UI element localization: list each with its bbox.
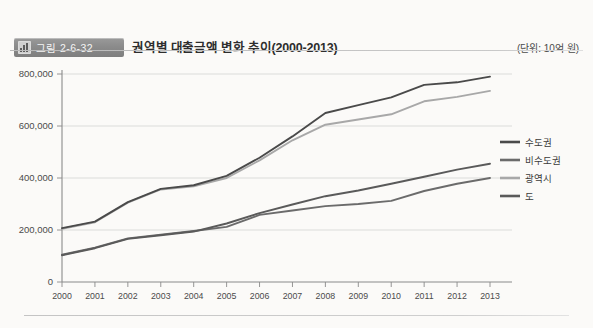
x-axis-label: 2011 xyxy=(415,291,434,300)
legend-label-광역시: 광역시 xyxy=(525,173,552,184)
y-axis-label: 200,000 xyxy=(19,224,53,235)
x-axis-label: 2013 xyxy=(480,291,500,300)
figure-header: 그림 2-6-32 권역별 대출금액 변화 추이(2000-2013) (단위:… xyxy=(0,16,593,48)
series-line-비수도권 xyxy=(62,178,490,255)
footer-divider xyxy=(24,315,569,316)
line-chart: 0200,000400,000600,000800,00020002001200… xyxy=(0,52,593,300)
x-axis-label: 2010 xyxy=(381,291,401,300)
legend-label-수도권: 수도권 xyxy=(525,137,552,148)
x-axis-label: 2005 xyxy=(217,291,237,300)
legend-label-도: 도 xyxy=(525,191,534,202)
x-axis-label: 2001 xyxy=(85,291,105,300)
x-axis-label: 2002 xyxy=(118,291,138,300)
y-axis-label: 0 xyxy=(48,276,53,287)
x-axis-label: 2009 xyxy=(349,291,369,300)
x-axis-label: 2012 xyxy=(447,291,467,300)
series-line-수도권 xyxy=(62,77,490,229)
header-divider xyxy=(10,50,583,51)
x-axis-label: 2006 xyxy=(250,291,270,300)
x-axis-label: 2004 xyxy=(184,291,204,300)
chart-canvas: 0200,000400,000600,000800,00020002001200… xyxy=(0,52,593,300)
figure-page: 그림 2-6-32 권역별 대출금액 변화 추이(2000-2013) (단위:… xyxy=(0,0,593,328)
x-axis-label: 2000 xyxy=(52,291,72,300)
legend-label-비수도권: 비수도권 xyxy=(525,155,561,166)
y-axis-label: 800,000 xyxy=(19,68,53,79)
y-axis-label: 400,000 xyxy=(19,172,53,183)
x-axis-label: 2008 xyxy=(316,291,336,300)
x-axis-label: 2003 xyxy=(151,291,171,300)
series-line-도 xyxy=(62,164,490,256)
y-axis-label: 600,000 xyxy=(19,120,53,131)
x-axis-label: 2007 xyxy=(283,291,303,300)
